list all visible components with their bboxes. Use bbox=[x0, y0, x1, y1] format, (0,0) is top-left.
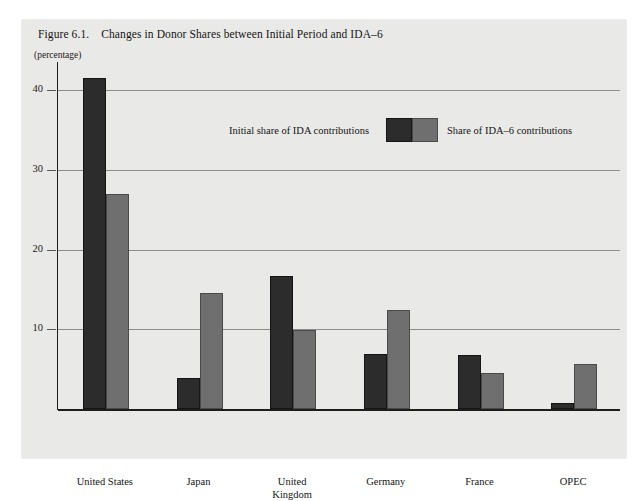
bar-ida6-share-0 bbox=[106, 194, 129, 409]
x-axis-label-line: Germany bbox=[339, 475, 433, 488]
plot-area: 10203040United StatesJapanUnitedKingdomG… bbox=[58, 60, 620, 409]
bar-ida6-share-2 bbox=[293, 330, 316, 409]
y-tick-label-20: 20 bbox=[17, 243, 43, 254]
y-tick-label-30: 30 bbox=[17, 163, 43, 174]
gridline-30 bbox=[58, 170, 620, 171]
y-tick-label-40: 40 bbox=[17, 83, 43, 94]
gridline-40 bbox=[58, 90, 620, 91]
y-tick-mark-40 bbox=[47, 90, 56, 91]
x-axis-label-3: Germany bbox=[339, 475, 433, 488]
x-axis-label-0: United States bbox=[58, 475, 152, 488]
gridline-10 bbox=[58, 329, 620, 330]
x-axis-label-line: United bbox=[245, 475, 339, 488]
y-tick-mark-10 bbox=[47, 329, 56, 330]
bar-ida6-share-4 bbox=[481, 373, 504, 409]
x-axis-baseline bbox=[58, 409, 620, 411]
bar-initial-share-5 bbox=[551, 403, 574, 409]
gridline-20 bbox=[58, 250, 620, 251]
x-axis-label-line: France bbox=[433, 475, 527, 488]
bar-ida6-share-5 bbox=[574, 364, 597, 409]
bar-ida6-share-1 bbox=[200, 293, 223, 409]
figure-title-text: Changes in Donor Shares between Initial … bbox=[101, 28, 383, 40]
x-axis-label-1: Japan bbox=[152, 475, 246, 488]
x-axis-label-2: UnitedKingdom bbox=[245, 475, 339, 501]
bar-initial-share-0 bbox=[83, 78, 106, 409]
y-axis-unit-label: (percentage) bbox=[34, 50, 81, 60]
bar-ida6-share-3 bbox=[387, 310, 410, 409]
y-tick-mark-20 bbox=[47, 250, 56, 251]
bar-initial-share-2 bbox=[270, 276, 293, 409]
bar-initial-share-4 bbox=[458, 355, 481, 409]
bar-initial-share-3 bbox=[364, 354, 387, 409]
figure-caption: Figure 6.1.Changes in Donor Shares betwe… bbox=[38, 28, 383, 40]
x-axis-label-line: United States bbox=[58, 475, 152, 488]
x-axis-label-line: Japan bbox=[152, 475, 246, 488]
x-axis-label-line: Kingdom bbox=[245, 488, 339, 501]
figure-number: Figure 6.1. bbox=[38, 28, 89, 40]
x-axis-label-line: OPEC bbox=[526, 475, 620, 488]
x-axis-label-4: France bbox=[433, 475, 527, 488]
bar-initial-share-1 bbox=[177, 378, 200, 409]
x-axis-label-5: OPEC bbox=[526, 475, 620, 488]
y-tick-label-10: 10 bbox=[17, 322, 43, 333]
y-tick-mark-30 bbox=[47, 170, 56, 171]
